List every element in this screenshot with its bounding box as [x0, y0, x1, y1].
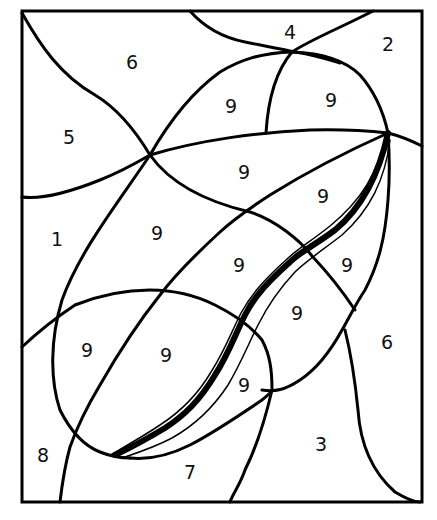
curve-right-to-bottom-corner	[345, 330, 420, 502]
curve-topleft-diagonal	[22, 13, 355, 310]
region-label[interactable]: 3	[315, 435, 327, 454]
puzzle-drawing	[0, 0, 437, 520]
region-label[interactable]: 4	[284, 23, 296, 42]
region-label[interactable]: 9	[225, 97, 237, 116]
region-label[interactable]: 6	[381, 333, 393, 352]
region-label[interactable]: 9	[325, 91, 337, 110]
region-label[interactable]: 9	[238, 376, 250, 395]
region-label[interactable]: 2	[382, 35, 394, 54]
region-label[interactable]: 9	[238, 163, 250, 182]
region-label[interactable]: 8	[37, 446, 49, 465]
region-label[interactable]: 9	[151, 224, 163, 243]
region-label[interactable]: 1	[51, 230, 63, 249]
region-label[interactable]: 6	[126, 53, 138, 72]
region-label[interactable]: 9	[317, 187, 329, 206]
region-label[interactable]: 9	[291, 304, 303, 323]
region-label[interactable]: 9	[341, 256, 353, 275]
region-label[interactable]: 9	[160, 346, 172, 365]
region-label[interactable]: 5	[63, 128, 75, 147]
oval-left-outline	[53, 155, 150, 458]
curve-left-to-right-band	[22, 130, 422, 198]
region-label[interactable]: 7	[184, 463, 196, 482]
curve-long-diagonal	[60, 133, 388, 502]
region-label[interactable]: 9	[81, 341, 93, 360]
region-label[interactable]: 9	[233, 256, 245, 275]
